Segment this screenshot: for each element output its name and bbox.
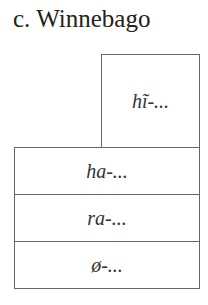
stack-row: ø-... xyxy=(14,241,200,289)
diagram-title: c. Winnebago xyxy=(13,4,150,34)
stack-row: ra-... xyxy=(14,194,200,242)
stack-row: ha-... xyxy=(14,147,200,195)
top-box: hĩ-... xyxy=(101,54,200,149)
top-box-label: hĩ-... xyxy=(132,90,169,113)
row-label: ha-... xyxy=(86,160,128,183)
row-label: ra-... xyxy=(87,207,126,230)
row-label: ø-... xyxy=(91,254,123,277)
